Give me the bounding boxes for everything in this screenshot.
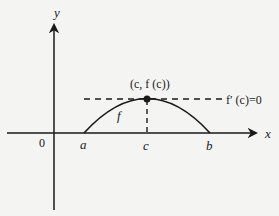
x-axis-label: x	[264, 126, 271, 141]
origin-label: 0	[39, 136, 45, 150]
curve-label: f	[117, 108, 123, 123]
max-point-label: (c, f (c))	[130, 77, 170, 91]
point-c-label: c	[143, 138, 149, 153]
point-a-label: a	[80, 137, 87, 152]
diagram-canvas: y x 0 a c b f (c, f (c)) f′ (c)=0	[0, 0, 279, 216]
tangent-label: f′ (c)=0	[226, 93, 262, 107]
y-axis-label: y	[52, 5, 60, 20]
maximum-point	[144, 96, 151, 103]
point-b-label: b	[206, 138, 213, 153]
